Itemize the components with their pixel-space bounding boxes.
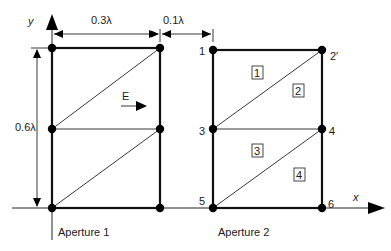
aperture-mesh-diagram: x y 0.3λ 0.1λ 0.6λ (0, 0, 391, 251)
arrow-right-icon (136, 101, 147, 111)
e-field-arrow: E (121, 90, 147, 111)
aperture-2-caption: Aperture 2 (218, 226, 269, 238)
e-field-label: E (122, 90, 129, 102)
node-label-5: 5 (199, 195, 205, 207)
element-label-2: 2 (295, 85, 301, 97)
x-axis-arrow-icon (368, 202, 385, 214)
y-axis-arrow-icon (46, 14, 58, 30)
x-axis-label: x (352, 191, 359, 203)
dimension-gap: 0.1λ (162, 14, 213, 42)
aperture-1-mesh (48, 44, 164, 212)
dimension-aperture-width: 0.3λ (54, 14, 160, 42)
dimension-gap-label: 0.1λ (163, 14, 184, 26)
y-axis-label: y (27, 15, 35, 27)
aperture-2-mesh (209, 46, 326, 212)
node-labels: 1 2′ 3 4 5 6 (199, 45, 338, 210)
dimension-height-label: 0.6λ (15, 121, 36, 133)
element-label-4: 4 (296, 169, 302, 181)
element-label-3: 3 (254, 145, 260, 157)
node-label-4: 4 (329, 125, 335, 137)
node-label-1: 1 (199, 45, 205, 57)
aperture-1-caption: Aperture 1 (58, 226, 109, 238)
dimension-height: 0.6λ (14, 48, 50, 207)
node-label-6: 6 (328, 198, 334, 210)
dimension-width-label: 0.3λ (91, 14, 112, 26)
element-labels: 1 2 3 4 (252, 66, 305, 181)
element-label-1: 1 (254, 67, 260, 79)
node-label-2: 2′ (330, 50, 338, 62)
node-label-3: 3 (199, 125, 205, 137)
